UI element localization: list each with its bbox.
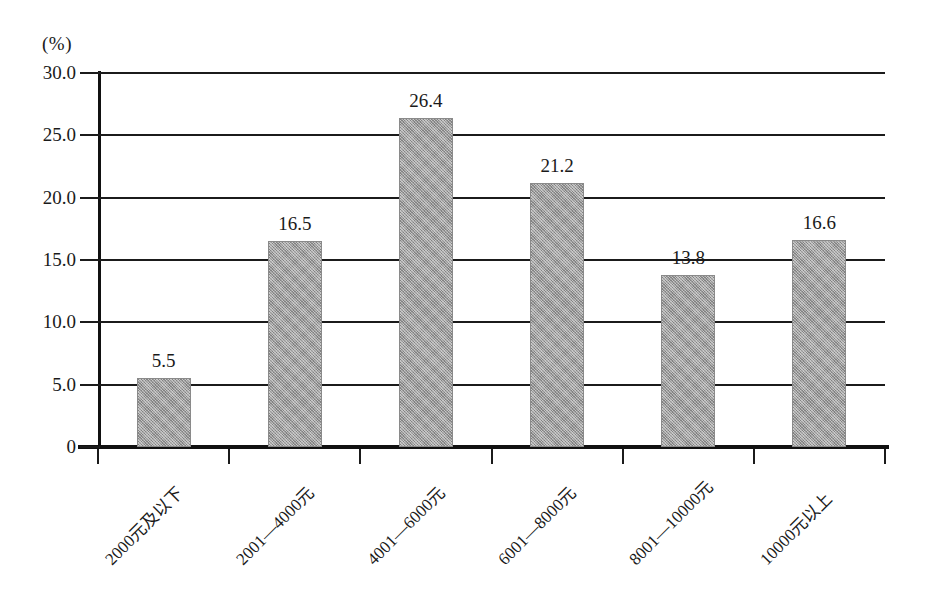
x-axis-tick <box>491 449 493 464</box>
plot-area: 5.516.526.421.213.816.6 <box>98 73 885 447</box>
y-axis-tick <box>80 384 100 386</box>
bar-value-label: 16.6 <box>803 213 836 232</box>
y-axis-tick-label: 30.0 <box>14 63 76 82</box>
y-axis-tick <box>80 134 100 136</box>
bar-value-label: 5.5 <box>152 351 176 370</box>
y-axis-tick <box>80 72 100 74</box>
y-axis-tick-label: 10.0 <box>14 312 76 331</box>
bar-value-label: 13.8 <box>672 248 705 267</box>
y-axis-tick-label: 15.0 <box>14 250 76 269</box>
y-axis-tick <box>80 321 100 323</box>
x-axis-tick <box>884 449 886 464</box>
x-axis-category-label: 6001—8000元 <box>495 484 579 568</box>
x-axis-tick <box>753 449 755 464</box>
x-axis-tick <box>228 449 230 464</box>
x-axis-category-label: 4001—6000元 <box>364 484 448 568</box>
bar <box>137 378 191 447</box>
bar-value-label: 26.4 <box>409 91 442 110</box>
bar <box>399 118 453 447</box>
x-axis-tick <box>622 449 624 464</box>
x-axis-tick <box>97 449 99 464</box>
x-axis-category-label: 2001—4000元 <box>233 484 317 568</box>
bar <box>792 240 846 447</box>
x-axis-category-label: 10000元以上 <box>757 490 835 568</box>
bar-value-label: 21.2 <box>540 156 573 175</box>
bar-chart: (%) 30.025.020.015.010.05.00 5.516.526.4… <box>0 0 929 599</box>
bar <box>661 275 715 447</box>
x-axis-category-label: 8001—10000元 <box>626 478 716 568</box>
bar-value-label: 16.5 <box>278 214 311 233</box>
y-axis-tick <box>80 259 100 261</box>
y-axis-tick-label: 5.0 <box>14 375 76 394</box>
bar <box>268 241 322 447</box>
x-axis-category-label: 2000元及以下 <box>102 484 186 568</box>
y-axis-tick <box>80 197 100 199</box>
y-axis-tick-label: 20.0 <box>14 188 76 207</box>
bar <box>530 183 584 447</box>
unit-label: (%) <box>42 33 72 55</box>
x-axis-tick <box>359 449 361 464</box>
y-axis-tick-label: 0 <box>14 437 76 456</box>
y-axis-tick <box>80 446 100 448</box>
y-axis-tick-label: 25.0 <box>14 125 76 144</box>
